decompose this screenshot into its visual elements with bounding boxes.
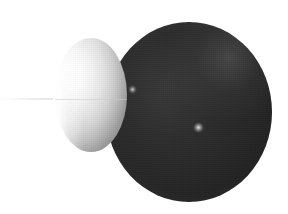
dark-sphere-rim-light: [106, 22, 272, 202]
light-sphere: [55, 38, 127, 152]
light-sphere-dither-texture: [55, 38, 127, 152]
render-canvas: [0, 0, 288, 214]
dark-sphere-dither-texture: [106, 22, 272, 202]
dark-sphere: [106, 22, 272, 202]
render-viewport: [0, 0, 288, 214]
